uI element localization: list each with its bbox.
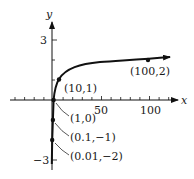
- label-0.01-neg2: (0.01,−2): [70, 150, 123, 163]
- label-1-0: (1,0): [70, 112, 96, 125]
- log-graph: 50 100 x 3 −3 y (100,2) (10,1) (1,0) (0.…: [0, 0, 194, 179]
- leader-arrows: [55, 103, 69, 155]
- x-axis: 50 100 x: [10, 94, 188, 117]
- y-axis-label: y: [45, 8, 53, 21]
- point-100-2: [146, 58, 150, 62]
- x-tick-100: 100: [140, 104, 161, 117]
- x-tick-50: 50: [94, 104, 108, 117]
- label-0.1-neg1: (0.1,−1): [70, 131, 116, 144]
- label-100-2: (100,2): [130, 65, 170, 78]
- point-10-1: [57, 77, 61, 81]
- y-axis: 3 −3 y: [33, 8, 57, 170]
- label-10-1: (10,1): [64, 82, 97, 95]
- point-1-0: [51, 98, 55, 102]
- point-0.01-neg2: [50, 138, 54, 142]
- point-0.1-neg1: [51, 118, 55, 122]
- y-tick-3: 3: [40, 34, 47, 47]
- x-axis-label: x: [181, 94, 188, 107]
- y-tick-neg3: −3: [33, 154, 49, 167]
